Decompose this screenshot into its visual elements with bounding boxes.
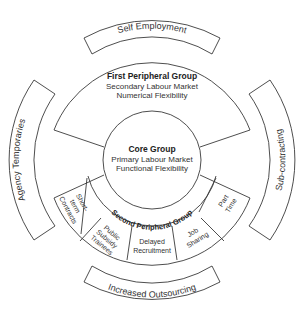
increased-outsourcing-band: Increased Outsourcing bbox=[84, 266, 220, 299]
core-line1: Primary Labour Market bbox=[111, 155, 193, 164]
core-line2: Functional Flexibility bbox=[116, 164, 188, 173]
first-peripheral-title: First Peripheral Group bbox=[107, 71, 197, 81]
second-peripheral-group: Second Peripheral Group Short- term Cont… bbox=[54, 175, 250, 265]
core-title: Core Group bbox=[128, 144, 175, 154]
increased-outsourcing-label: Increased Outsourcing bbox=[107, 282, 197, 300]
segment-public-subsidy-trainees: Public Subsidy Trainees bbox=[89, 221, 125, 256]
segment-part-time: Part Time bbox=[216, 192, 238, 214]
first-peripheral-group: First Peripheral Group Secondary Labour … bbox=[54, 63, 250, 147]
self-employment-band: Self Employment bbox=[84, 21, 220, 54]
svg-text:Delayed: Delayed bbox=[139, 238, 165, 246]
sub-contracting-band: Sub-contracting bbox=[249, 80, 295, 240]
first-peripheral-line1: Secondary Labour Market bbox=[106, 82, 199, 91]
svg-text:Recruitment: Recruitment bbox=[133, 247, 171, 254]
segment-delayed-recruitment: Delayed Recruitment bbox=[133, 238, 171, 254]
agency-temporaries-label: Agency Temporaries bbox=[11, 117, 28, 203]
segment-job-sharing: Job Sharing bbox=[181, 223, 211, 250]
flexible-firm-diagram: Self Employment Agency Temporaries Sub-c… bbox=[0, 0, 300, 315]
second-peripheral-title: Second Peripheral Group bbox=[110, 208, 195, 232]
sub-contracting-label: Sub-contracting bbox=[274, 128, 288, 191]
core-group: Core Group Primary Labour Market Functio… bbox=[103, 111, 201, 209]
first-peripheral-line2: Numerical Flexibility bbox=[116, 91, 187, 100]
agency-temporaries-band: Agency Temporaries bbox=[9, 80, 55, 240]
